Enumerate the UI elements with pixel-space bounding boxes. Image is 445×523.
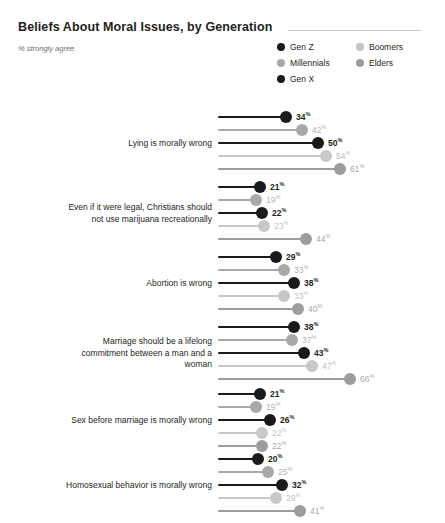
chart-subtitle: % strongly agree: [18, 44, 74, 53]
lollipop-stem: [218, 282, 294, 284]
percent-sign: %: [279, 181, 284, 187]
lollipop-row[interactable]: 21%: [218, 181, 445, 194]
legend-item-elders[interactable]: Elders: [356, 56, 403, 70]
lollipop-row[interactable]: 47%: [218, 360, 445, 373]
legend-item-gen-x[interactable]: Gen X: [277, 72, 330, 86]
lollipop-dot[interactable]: [288, 321, 300, 333]
lollipop-dot[interactable]: [256, 207, 268, 219]
chart-group: Homosexual behavior is morally wrong20%2…: [0, 453, 445, 518]
category-label: Lying is morally wrong: [12, 138, 212, 150]
lollipop-dot[interactable]: [270, 251, 282, 263]
percent-sign: %: [295, 492, 300, 498]
lollipop-row[interactable]: 21%: [218, 388, 445, 401]
legend-item-gen-z[interactable]: Gen Z: [277, 40, 330, 54]
percent-sign: %: [281, 427, 286, 433]
lollipop-dot[interactable]: [250, 401, 262, 413]
lollipop-row[interactable]: 29%: [218, 492, 445, 505]
lollipop-row[interactable]: 29%: [218, 251, 445, 264]
data-value-label: 34%: [296, 111, 310, 123]
lollipop-row[interactable]: 44%: [218, 233, 445, 246]
data-value-label: 33%: [294, 290, 308, 302]
lollipop-dot[interactable]: [344, 373, 356, 385]
data-value-label: 23%: [274, 220, 288, 232]
legend-item-millennials[interactable]: Millennials: [277, 56, 330, 70]
data-value-label: 33%: [294, 264, 308, 276]
lollipop-dot[interactable]: [320, 150, 332, 162]
lollipop-stem: [218, 339, 292, 341]
data-value-label: 19%: [266, 194, 280, 206]
lollipop-dot[interactable]: [296, 124, 308, 136]
lollipop-dot[interactable]: [258, 220, 270, 232]
lollipop-row[interactable]: 41%: [218, 505, 445, 518]
lollipop-dot[interactable]: [250, 194, 262, 206]
lollipop-dot[interactable]: [300, 233, 312, 245]
lollipop-row[interactable]: 25%: [218, 466, 445, 479]
lollipop-dot[interactable]: [270, 492, 282, 504]
lollipop-dot[interactable]: [254, 181, 266, 193]
lollipop-row[interactable]: 20%: [218, 453, 445, 466]
lollipop-stem: [218, 378, 350, 380]
lollipop-stem: [218, 484, 282, 486]
lollipop-dot[interactable]: [256, 427, 268, 439]
legend-swatch-icon: [277, 43, 285, 51]
legend-swatch-icon: [277, 75, 285, 83]
lollipop-row[interactable]: 38%: [218, 277, 445, 290]
chart-group: Marriage should be a lifelongcommitment …: [0, 321, 445, 386]
lollipop-dot[interactable]: [306, 360, 318, 372]
lollipop-dot[interactable]: [252, 453, 264, 465]
page-title: Beliefs About Moral Issues, by Generatio…: [18, 20, 272, 34]
legend-item-boomers[interactable]: Boomers: [356, 40, 403, 54]
lollipop-row[interactable]: 40%: [218, 303, 445, 316]
lollipop-dot[interactable]: [294, 505, 306, 517]
data-value-label: 54%: [336, 150, 350, 162]
lollipop-dot[interactable]: [278, 264, 290, 276]
lollipop-row[interactable]: 34%: [218, 111, 445, 124]
legend-swatch-icon: [277, 59, 285, 67]
lollipop-row[interactable]: 22%: [218, 427, 445, 440]
lollipop-dot[interactable]: [312, 137, 324, 149]
lollipop-dot[interactable]: [334, 163, 346, 175]
lollipop-row[interactable]: 23%: [218, 220, 445, 233]
lollipop-row[interactable]: 26%: [218, 414, 445, 427]
lollipop-dot[interactable]: [292, 303, 304, 315]
lollipop-row[interactable]: 22%: [218, 207, 445, 220]
lollipop-row[interactable]: 22%: [218, 440, 445, 453]
data-value-label: 26%: [280, 414, 294, 426]
lollipop-row[interactable]: 61%: [218, 163, 445, 176]
lollipop-dot[interactable]: [278, 290, 290, 302]
lollipop-row[interactable]: 43%: [218, 347, 445, 360]
lollipop-row[interactable]: 32%: [218, 479, 445, 492]
category-label-line: Sex before marriage is morally wrong: [12, 415, 212, 427]
lollipop-row[interactable]: 19%: [218, 194, 445, 207]
chart-group: Sex before marriage is morally wrong21%1…: [0, 388, 445, 453]
lollipop-row[interactable]: 37%: [218, 334, 445, 347]
percent-sign: %: [321, 124, 326, 130]
lollipop-dot[interactable]: [288, 277, 300, 289]
lollipop-row[interactable]: 33%: [218, 290, 445, 303]
lollipop-dot[interactable]: [264, 414, 276, 426]
percent-sign: %: [313, 277, 318, 283]
lollipop-row[interactable]: 54%: [218, 150, 445, 163]
lollipop-row[interactable]: 38%: [218, 321, 445, 334]
lollipop-dot[interactable]: [254, 388, 266, 400]
lollipop-dot[interactable]: [298, 347, 310, 359]
lollipop-row[interactable]: 19%: [218, 401, 445, 414]
data-value-label: 37%: [302, 334, 316, 346]
lollipop-dot[interactable]: [262, 466, 274, 478]
data-value-label: 66%: [360, 373, 374, 385]
percent-sign: %: [317, 303, 322, 309]
lollipop-dot[interactable]: [276, 479, 288, 491]
percent-sign: %: [289, 414, 294, 420]
lollipop-stem: [218, 471, 268, 473]
lollipop-row[interactable]: 50%: [218, 137, 445, 150]
lollipop-row[interactable]: 33%: [218, 264, 445, 277]
percent-sign: %: [331, 360, 336, 366]
lollipop-dot[interactable]: [286, 334, 298, 346]
lollipop-dot[interactable]: [256, 440, 268, 452]
percent-sign: %: [303, 264, 308, 270]
lollipop-row[interactable]: 42%: [218, 124, 445, 137]
percent-sign: %: [325, 233, 330, 239]
lollipop-row[interactable]: 66%: [218, 373, 445, 386]
lollipop-stem: [218, 142, 318, 144]
lollipop-dot[interactable]: [280, 111, 292, 123]
